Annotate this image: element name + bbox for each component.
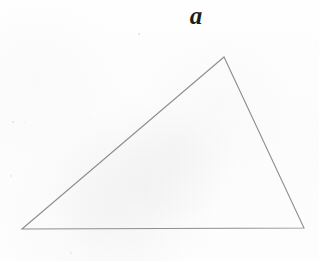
- triangle-label-a: a: [178, 1, 214, 31]
- triangle-diagram: [0, 0, 319, 261]
- figure-canvas: a: [0, 0, 319, 261]
- triangle-outline: [22, 57, 304, 229]
